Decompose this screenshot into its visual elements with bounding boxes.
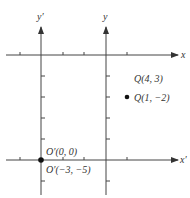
x-prime-axis-label: x′ — [179, 154, 187, 165]
point-o-prime — [38, 157, 44, 163]
point-o-prime-old-label: O′(−3, −5) — [46, 164, 91, 176]
point-o-prime-new-label: O′(0, 0) — [46, 146, 78, 158]
point-q-old-label: Q(1, −2) — [134, 92, 170, 104]
y-prime-axis — [41, 27, 45, 195]
point-q-new-label: Q(4, 3) — [134, 73, 164, 85]
x-prime-axis — [6, 157, 178, 160]
x-axis — [6, 52, 178, 55]
y-axis — [106, 27, 110, 195]
y-axis-label: y — [102, 11, 108, 22]
y-prime-axis-label: y′ — [36, 11, 44, 22]
point-q — [125, 95, 130, 100]
translation-of-axes-diagram: x y x′ y′ Q(4, 3) Q(1, −2) O′(0, 0) O′(−… — [0, 0, 190, 198]
x-axis-label: x — [180, 49, 186, 60]
